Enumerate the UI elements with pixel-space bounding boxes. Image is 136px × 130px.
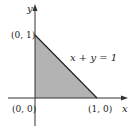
- x-axis-arrow-icon: [121, 96, 128, 101]
- diagram-canvas: y x (0, 0) (1, 0) (0, 1) x + y = 1: [0, 0, 136, 130]
- line-equation-label: x + y = 1: [70, 52, 117, 63]
- x-axis-label: x: [122, 103, 128, 114]
- point-label-0-1: (0, 1): [11, 30, 35, 40]
- point-label-1-0: (1, 0): [88, 104, 112, 114]
- point-label-origin: (0, 0): [12, 104, 36, 114]
- triangle-region-diagram: y x (0, 0) (1, 0) (0, 1) x + y = 1: [0, 0, 136, 130]
- y-axis-label: y: [26, 3, 33, 14]
- y-axis-arrow-icon: [33, 4, 38, 11]
